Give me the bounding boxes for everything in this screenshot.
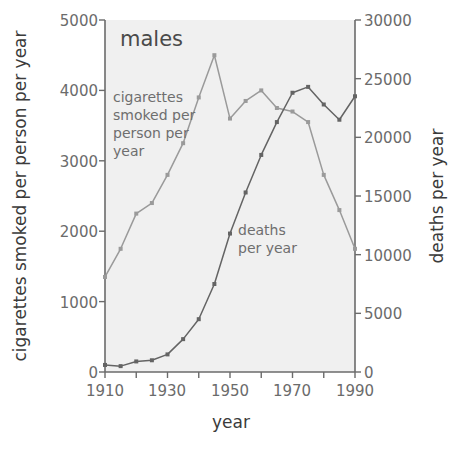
line-chart: 5000 4000 3000 2000 1000 0 30000 25000 2… [0,0,462,452]
data-point-marker [259,88,263,92]
data-point-marker [197,317,201,321]
data-point-marker [337,208,341,212]
data-point-marker [291,91,295,95]
data-point-marker [259,153,263,157]
data-point-marker [275,120,279,124]
data-point-marker [150,358,154,362]
y2tick-label-15000: 15000 [364,188,412,206]
ytick-label-4000: 4000 [60,82,98,100]
ytick-label-1000: 1000 [60,294,98,312]
data-point-marker [337,118,341,122]
annotation-cigarettes-line3: person per [113,125,189,141]
data-point-marker [103,363,107,367]
left-axis-ticks [99,20,105,372]
data-point-marker [306,120,310,124]
data-point-marker [306,85,310,89]
data-point-marker [212,53,216,57]
y2tick-label-20000: 20000 [364,129,412,147]
data-point-marker [150,201,154,205]
data-point-marker [322,102,326,106]
data-point-marker [244,99,248,103]
data-point-marker [181,337,185,341]
xtick-label-1950: 1950 [211,382,249,400]
annotation-deaths-line2: per year [238,240,297,256]
data-point-marker [166,352,170,356]
ytick-label-2000: 2000 [60,223,98,241]
right-axis-ticks [355,20,361,372]
data-point-marker [322,173,326,177]
bottom-axis-ticks [105,372,355,378]
data-point-marker [291,110,295,114]
data-point-marker [353,94,357,98]
y2tick-label-30000: 30000 [364,12,412,30]
data-point-marker [228,232,232,236]
xtick-label-1910: 1910 [86,382,124,400]
data-point-marker [181,141,185,145]
ytick-label-5000: 5000 [60,12,98,30]
annotation-cigarettes-line1: cigarettes [113,89,183,105]
y2tick-label-25000: 25000 [364,71,412,89]
data-point-marker [275,106,279,110]
y2tick-label-10000: 10000 [364,247,412,265]
data-point-marker [228,117,232,121]
data-point-marker [119,247,123,251]
data-point-marker [134,212,138,216]
data-point-marker [134,359,138,363]
plot-background [105,20,355,372]
data-point-marker [103,275,107,279]
y2tick-label-0: 0 [364,364,374,382]
xtick-label-1970: 1970 [273,382,311,400]
plot-title: males [120,27,183,51]
data-point-marker [353,247,357,251]
annotation-deaths-line1: deaths [238,222,286,238]
y-axis-title-right: deaths per year [427,129,447,264]
xtick-label-1930: 1930 [148,382,186,400]
annotation-cigarettes-line2: smoked per [113,107,196,123]
y-axis-title-left: cigarettes smoked per person per year [10,30,30,361]
data-point-marker [166,173,170,177]
ytick-label-3000: 3000 [60,153,98,171]
x-axis-title: year [212,412,250,432]
data-point-marker [212,282,216,286]
ytick-label-0: 0 [88,364,98,382]
data-point-marker [197,95,201,99]
annotation-cigarettes-line4: year [113,143,144,159]
y2tick-label-5000: 5000 [364,305,402,323]
data-point-marker [244,190,248,194]
xtick-label-1990: 1990 [336,382,374,400]
data-point-marker [119,364,123,368]
chart-figure: 5000 4000 3000 2000 1000 0 30000 25000 2… [0,0,462,452]
